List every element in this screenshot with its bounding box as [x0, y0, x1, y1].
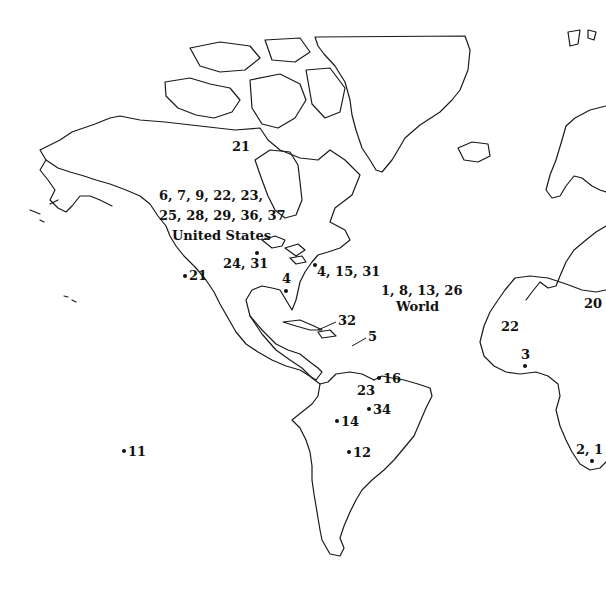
greenland-outline — [315, 36, 470, 172]
usa-codes-line2: 25, 28, 29, 36, 37 — [159, 208, 286, 223]
marker-dot-4 — [284, 289, 288, 293]
marker-label-22-africa: 22 — [501, 319, 519, 334]
marker-dot-14 — [335, 419, 339, 423]
marker-label-5: 5 — [368, 329, 377, 344]
marker-dot-12 — [347, 450, 351, 454]
europe-outline — [526, 106, 606, 300]
leader-line-5 — [352, 338, 366, 346]
marker-label-20: 20 — [584, 296, 602, 311]
marker-label-21-west: 21 — [189, 268, 207, 283]
iceland-outline — [458, 142, 490, 162]
cuba-outline — [283, 320, 322, 330]
marker-dot-16 — [377, 376, 381, 380]
hispaniola-outline — [318, 330, 336, 338]
leader-line-32 — [318, 322, 336, 330]
marker-dot-34 — [367, 407, 371, 411]
marker-label-23: 23 — [357, 383, 375, 398]
marker-label-3: 3 — [521, 347, 530, 362]
marker-label-4: 4 — [282, 271, 291, 286]
marker-label-2-1: 2, 1 — [576, 442, 603, 457]
marker-dot-21-west — [183, 274, 187, 278]
marker-label-4-15-31: 4, 15, 31 — [317, 264, 380, 279]
marker-label-24-31: 24, 31 — [223, 256, 268, 271]
marker-label-16: 16 — [383, 371, 401, 386]
marker-dot-2-1 — [590, 459, 594, 463]
north-america-outline — [40, 116, 360, 380]
usa-region-name: United States — [172, 228, 271, 243]
south-america-outline — [292, 376, 432, 556]
arctic-archipelago — [165, 38, 345, 128]
marker-dot-24-31 — [255, 251, 259, 255]
world-region-name: World — [396, 299, 439, 314]
world-codes: 1, 8, 13, 26 — [381, 283, 462, 298]
svalbard-outline — [568, 30, 596, 46]
hawaii-islands — [64, 296, 76, 302]
usa-codes-line1: 6, 7, 9, 22, 23, — [159, 188, 263, 203]
marker-label-32: 32 — [338, 313, 356, 328]
marker-label-12: 12 — [353, 445, 371, 460]
marker-label-34: 34 — [373, 402, 391, 417]
marker-label-14: 14 — [341, 414, 359, 429]
marker-label-11: 11 — [128, 444, 146, 459]
marker-dot-11 — [122, 449, 126, 453]
marker-dot-3 — [523, 364, 527, 368]
map-canvas — [0, 0, 606, 593]
marker-label-21-arctic: 21 — [232, 139, 250, 154]
